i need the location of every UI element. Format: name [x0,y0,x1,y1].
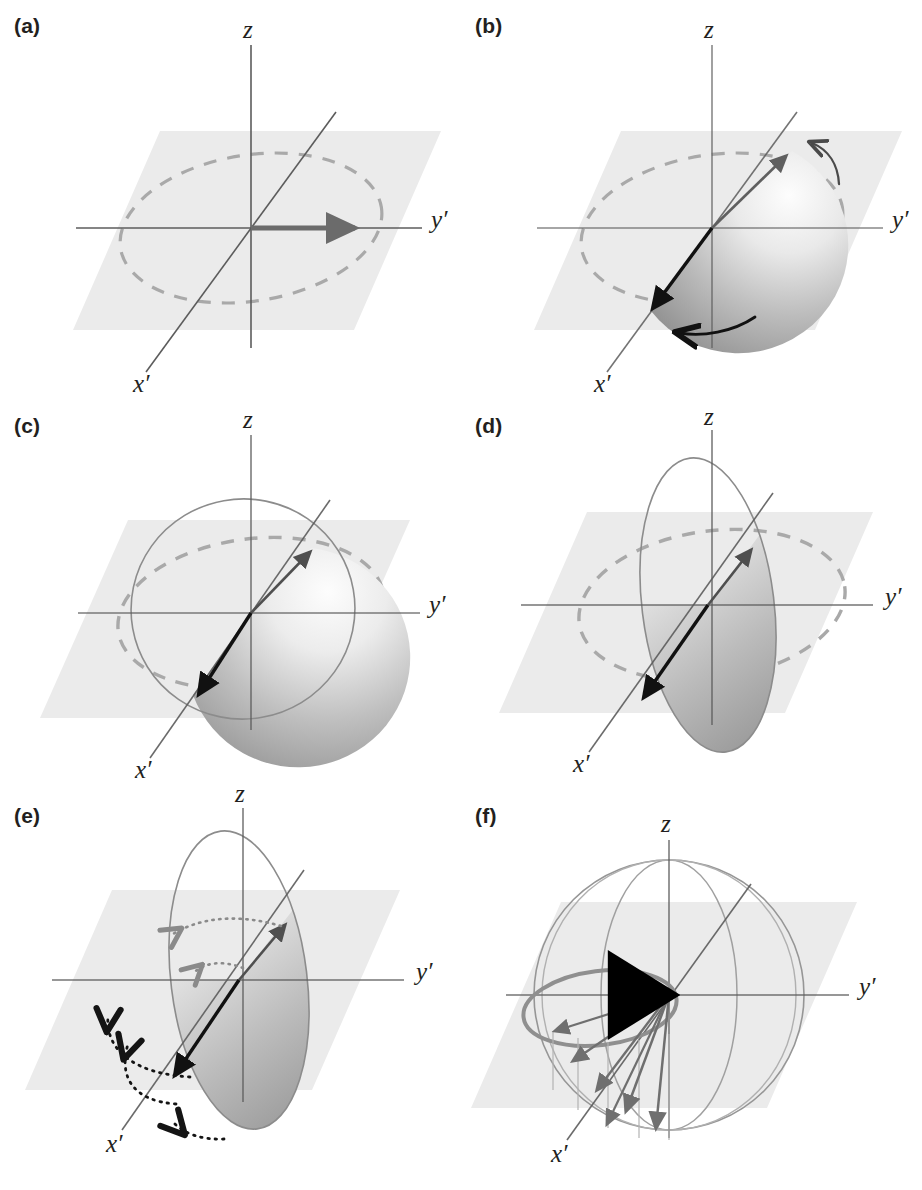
panel-d: (d) [461,400,922,790]
axis-label-y-prime: y′ [428,206,448,233]
axis-label-z: z [242,406,253,433]
panel-c: (c) [0,400,461,790]
panel-e-canvas: z y′ x′ [0,790,461,1190]
axis-label-z: z [703,16,714,43]
axis-label-x-prime: x′ [132,370,150,397]
panel-f: (f) [461,790,922,1190]
axis-label-x-prime: x′ [550,1140,568,1167]
panel-a: (a) z y′ x′ [0,0,461,400]
panel-e: (e) [0,790,461,1190]
axis-label-z: z [242,16,253,43]
axis-label-y-prime: y′ [856,973,876,1000]
panel-d-canvas: z y′ x′ [461,400,922,790]
axis-label-x-prime: x′ [593,370,611,397]
panel-b-canvas: z y′ x′ [461,0,922,400]
figure-root: (a) z y′ x′ (b) [0,0,922,1190]
axis-label-y-prime: y′ [413,958,433,985]
axis-label-y-prime: y′ [882,583,902,610]
axis-label-z: z [703,403,714,430]
axis-label-x-prime: x′ [134,756,152,783]
panel-b: (b) [461,0,922,400]
axis-label-x-prime: x′ [105,1130,123,1157]
panel-f-canvas: z y′ x′ [461,790,922,1190]
dotted-arrow-lower-3 [174,1123,224,1139]
panel-c-canvas: z y′ x′ [0,400,461,790]
axis-label-x-prime: x′ [572,750,590,777]
axis-label-z: z [234,790,245,807]
axis-label-y-prime: y′ [426,591,446,618]
axis-label-y-prime: y′ [889,206,909,233]
panel-a-canvas: z y′ x′ [0,0,461,400]
axis-label-z: z [660,810,671,837]
